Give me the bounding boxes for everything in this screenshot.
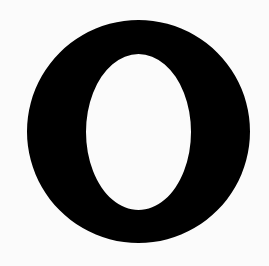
canvas: O bbox=[0, 0, 269, 266]
letter-o-shape bbox=[27, 20, 250, 243]
letter-o-glyph bbox=[0, 0, 269, 266]
